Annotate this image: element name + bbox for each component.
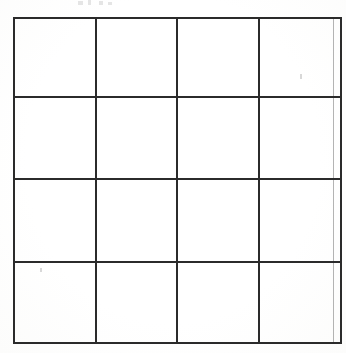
grid-cell-r1c1[interactable] xyxy=(96,97,177,179)
grid-cell-text xyxy=(178,180,258,187)
grid-cell-r1c0[interactable] xyxy=(14,97,96,179)
grid-cell-r2c2[interactable] xyxy=(177,179,259,262)
scan-artifact-mark xyxy=(88,0,91,5)
grid-cell-text xyxy=(97,98,176,105)
grid-cell-r1c3[interactable] xyxy=(259,97,341,179)
grid-row xyxy=(14,262,341,343)
grid-cell-text xyxy=(178,263,258,270)
grid-cell-r3c3[interactable] xyxy=(259,262,341,343)
grid-cell-r0c3[interactable] xyxy=(259,18,341,97)
scan-page xyxy=(0,0,346,353)
scan-artifact-mark xyxy=(78,1,83,5)
grid-cell-r3c2[interactable] xyxy=(177,262,259,343)
grid-row xyxy=(14,179,341,262)
grid-cell-r1c2[interactable] xyxy=(177,97,259,179)
grid-cell-text xyxy=(260,180,340,187)
grid-cell-text xyxy=(15,98,95,105)
grid-cell-text xyxy=(15,263,95,270)
grid-cell-r3c1[interactable] xyxy=(96,262,177,343)
grid-cell-r2c3[interactable] xyxy=(259,179,341,262)
grid-cell-r2c1[interactable] xyxy=(96,179,177,262)
grid-row xyxy=(14,97,341,179)
grid-cell-text xyxy=(260,19,340,26)
grid-cell-text xyxy=(97,19,176,26)
grid-cell-text xyxy=(178,19,258,26)
scan-artifact-mark xyxy=(99,1,103,5)
grid-cell-text xyxy=(260,98,340,105)
grid-cell-text xyxy=(178,98,258,105)
grid-cell-text xyxy=(97,263,176,270)
scan-artifact-mark xyxy=(108,2,112,5)
grid-cell-r3c0[interactable] xyxy=(14,262,96,343)
grid-cell-text xyxy=(15,180,95,187)
grid-cell-text xyxy=(260,263,340,270)
grid-cell-r2c0[interactable] xyxy=(14,179,96,262)
grid-cell-r0c2[interactable] xyxy=(177,18,259,97)
grid-cell-r0c0[interactable] xyxy=(14,18,96,97)
grid-cell-text xyxy=(97,180,176,187)
grid-cell-r0c1[interactable] xyxy=(96,18,177,97)
grid-row xyxy=(14,18,341,97)
blank-4x4-grid xyxy=(13,17,342,344)
grid-cell-text xyxy=(15,19,95,26)
